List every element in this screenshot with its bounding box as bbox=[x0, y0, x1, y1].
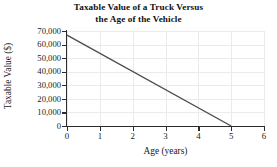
y-axis-tick-label: 70,000 bbox=[37, 27, 61, 36]
gridline-vertical bbox=[264, 31, 265, 126]
plot-area bbox=[67, 31, 264, 126]
y-axis-tick bbox=[62, 85, 67, 86]
x-axis-tick-label: 0 bbox=[57, 132, 77, 141]
gridline-vertical bbox=[100, 31, 101, 126]
chart-title-line-2: the Age of the Vehicle bbox=[0, 14, 277, 26]
gridline-vertical bbox=[133, 31, 134, 126]
y-axis-tick bbox=[62, 112, 67, 113]
y-axis-label-container: Taxable Value ($) bbox=[0, 24, 16, 128]
y-axis-tick-label: 50,000 bbox=[37, 54, 61, 63]
x-axis-tick-label: 3 bbox=[156, 132, 176, 141]
y-axis-tick-label: 30,000 bbox=[37, 81, 61, 90]
y-axis-tick-label: 10,000 bbox=[37, 108, 61, 117]
y-axis-tick bbox=[62, 31, 67, 32]
chart-title-line-1: Taxable Value of a Truck Versus bbox=[0, 2, 277, 14]
x-axis-tick-label: 1 bbox=[90, 132, 110, 141]
x-axis-tick-label: 2 bbox=[123, 132, 143, 141]
y-axis-tick-label: 0 bbox=[57, 122, 61, 131]
gridline-vertical bbox=[231, 31, 232, 126]
y-axis-tick-label: 60,000 bbox=[37, 40, 61, 49]
y-axis-tick-label: 20,000 bbox=[37, 95, 61, 104]
y-axis-tick bbox=[62, 45, 67, 46]
y-axis-tick-label: 40,000 bbox=[37, 67, 61, 76]
gridline-vertical bbox=[166, 31, 167, 126]
y-axis-tick bbox=[62, 58, 67, 59]
y-axis-label: Taxable Value ($) bbox=[3, 43, 13, 109]
chart-figure: Taxable Value of a Truck Versus the Age … bbox=[0, 0, 277, 167]
chart-title: Taxable Value of a Truck Versus the Age … bbox=[0, 2, 277, 25]
x-axis-tick-label: 6 bbox=[254, 132, 274, 141]
x-axis-label: Age (years) bbox=[67, 146, 264, 156]
y-axis-tick bbox=[62, 99, 67, 100]
x-axis-tick-label: 5 bbox=[221, 132, 241, 141]
x-axis-tick-label: 4 bbox=[188, 132, 208, 141]
y-axis-tick bbox=[62, 72, 67, 73]
gridline-vertical bbox=[198, 31, 199, 126]
